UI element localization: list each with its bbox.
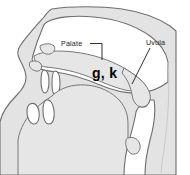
velar-phoneme-annotation: g, k — [92, 65, 117, 81]
lower-tooth-front — [27, 103, 39, 124]
lower-tooth-second — [43, 100, 54, 124]
palate-label: Palate — [61, 39, 82, 48]
uvula-label: Uvula — [146, 38, 165, 47]
vocal-tract-illustration: Palate Uvula g, k — [0, 0, 190, 175]
upper-tooth-front — [41, 70, 49, 93]
vocal-tract-figure: Palate Uvula g, k — [0, 0, 190, 175]
